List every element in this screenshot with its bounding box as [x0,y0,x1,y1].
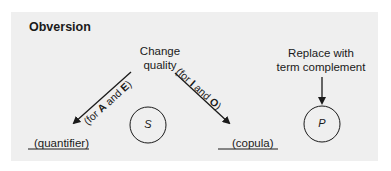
copula-label: (copula) [232,137,274,149]
subject-letter: S [138,118,158,130]
quantifier-label: (quantifier) [34,137,89,149]
diagram-title: Obversion [29,20,91,34]
replace-line2: term complement [268,60,374,74]
predicate-letter: P [312,117,332,129]
change-quality-line1: Change [128,44,192,58]
replace-label: Replace with term complement [268,46,374,74]
replace-line1: Replace with [268,46,374,60]
